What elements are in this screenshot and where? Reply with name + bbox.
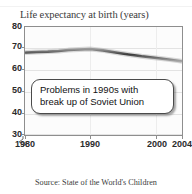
y-tick-label-60: 60 — [2, 63, 22, 73]
y-tick-label-50: 50 — [2, 85, 22, 95]
annotation-line-2: break up of Soviet Union — [40, 96, 166, 108]
chart-title: Life expectancy at birth (years) — [20, 9, 149, 20]
x-tick-label-2000: 2000 — [147, 139, 167, 149]
gridline-40 — [25, 114, 182, 115]
annotation-callout: Problems in 1990s with break up of Sovie… — [31, 79, 174, 114]
gridline-70 — [25, 48, 182, 49]
y-tick-label-40: 40 — [2, 107, 22, 117]
page-edge-artifact — [0, 0, 192, 7]
chart-source: Source: State of the World's Children — [0, 178, 192, 187]
y-tick-label-80: 80 — [2, 21, 22, 31]
x-tick-label-2004: 2004 — [172, 139, 192, 149]
gridline-60 — [25, 70, 182, 71]
x-tick-label-1980: 1980 — [15, 139, 35, 149]
chart-figure: Life expectancy at birth (years) 80 70 6… — [0, 0, 192, 194]
gridline-30 — [25, 134, 182, 135]
y-axis-labels: 80 70 60 50 40 30 — [0, 26, 22, 136]
x-tick-label-1990: 1990 — [80, 139, 100, 149]
y-tick-label-70: 70 — [2, 41, 22, 51]
annotation-line-1: Problems in 1990s with — [40, 84, 166, 96]
